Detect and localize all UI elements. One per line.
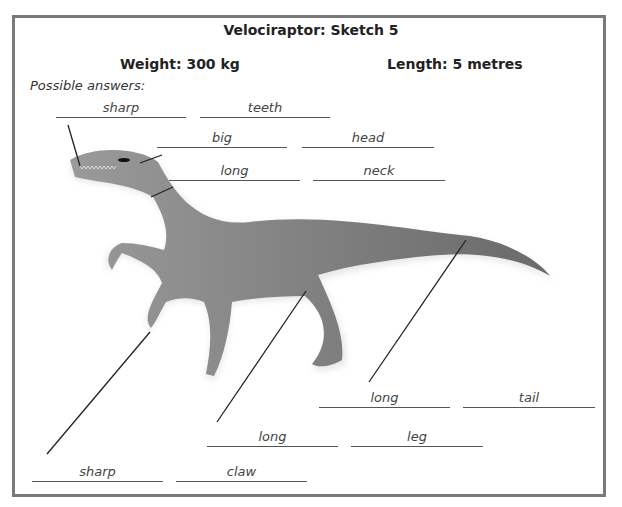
answer-field-sharp[interactable]: sharp [32,462,163,482]
weight-label: Weight: 300 kg [120,56,240,72]
length-label: Length: 5 metres [387,56,523,72]
answer-field-claw[interactable]: claw [176,462,307,482]
answer-field-teeth[interactable]: teeth [200,98,330,118]
answer-field-sharp[interactable]: sharp [56,98,186,118]
answer-field-neck[interactable]: neck [313,161,445,181]
answer-field-tail[interactable]: tail [463,388,595,408]
answer-field-long[interactable]: long [207,427,338,447]
answer-field-leg[interactable]: leg [351,427,483,447]
answer-field-big[interactable]: big [157,128,287,148]
answer-field-head[interactable]: head [302,128,434,148]
answer-field-long[interactable]: long [169,161,300,181]
page-title: Velociraptor: Sketch 5 [0,22,622,38]
answer-field-long[interactable]: long [319,388,450,408]
possible-answers-label: Possible answers: [30,78,145,93]
